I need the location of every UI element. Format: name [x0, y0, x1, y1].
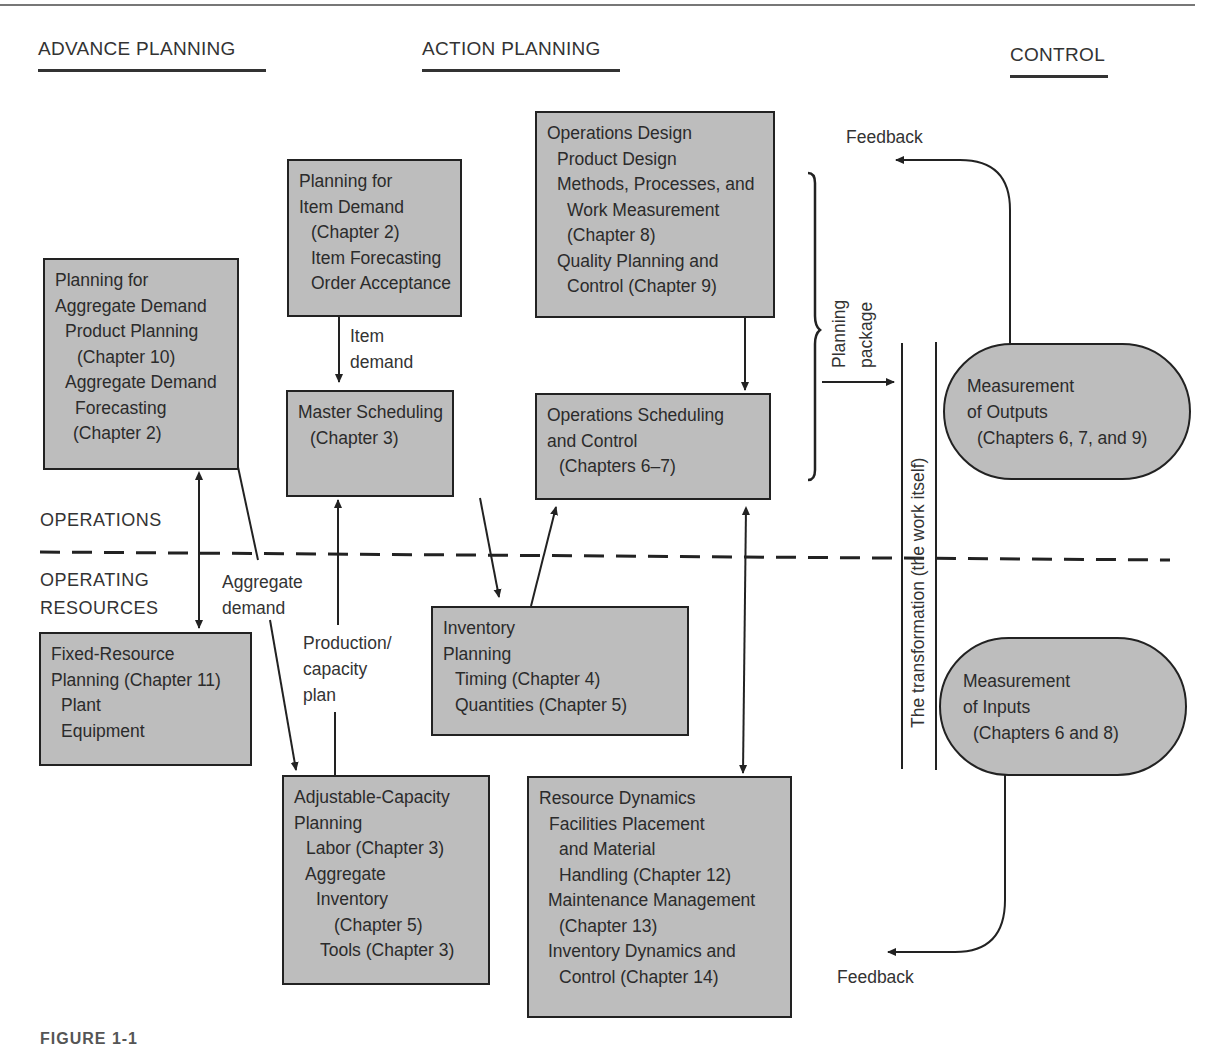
figure-caption: FIGURE 1-1	[40, 1030, 138, 1045]
planning-package-brace	[808, 173, 820, 480]
label-feedback-bottom: Feedback	[837, 964, 914, 990]
label-planning-package: Planning package	[826, 300, 880, 368]
box-planning-item-demand[interactable]: Planning for Item Demand (Chapter 2) Ite…	[287, 159, 462, 317]
feedback-curve-top	[896, 160, 1010, 344]
label-feedback-top: Feedback	[846, 124, 923, 150]
pill-measurement-of-outputs[interactable]: Measurement of Outputs (Chapters 6, 7, a…	[943, 343, 1191, 480]
box-operations-scheduling[interactable]: Operations Scheduling and Control (Chapt…	[535, 393, 771, 500]
label-production-capacity-plan: Production/ capacity plan	[303, 630, 392, 708]
label-transformation: The transformation (the work itself)	[908, 458, 929, 728]
box-master-scheduling[interactable]: Master Scheduling (Chapter 3)	[286, 390, 454, 497]
operations-divider	[40, 552, 1170, 560]
box-resource-dynamics[interactable]: Resource Dynamics Facilities Placement a…	[527, 776, 792, 1018]
arrow-ops-resource-dynamics	[743, 508, 746, 773]
pill-measurement-of-inputs[interactable]: Measurement of Inputs (Chapters 6 and 8)	[939, 637, 1187, 776]
arrow-master-to-inventory	[480, 498, 499, 597]
box-adjustable-capacity-planning[interactable]: Adjustable-Capacity Planning Labor (Chap…	[282, 775, 490, 985]
feedback-curve-bottom	[888, 775, 1005, 952]
line-aggregate-demand-upper	[238, 467, 258, 560]
box-planning-aggregate-demand[interactable]: Planning for Aggregate Demand Product Pl…	[43, 258, 239, 470]
arrow-aggregate-demand-lower	[270, 620, 296, 770]
box-inventory-planning[interactable]: Inventory Planning Timing (Chapter 4) Qu…	[431, 606, 689, 736]
label-item-demand: Item demand	[350, 323, 413, 375]
box-fixed-resource-planning[interactable]: Fixed-Resource Planning (Chapter 11) Pla…	[39, 632, 252, 766]
label-aggregate-demand: Aggregate demand	[222, 569, 303, 621]
box-operations-design[interactable]: Operations Design Product Design Methods…	[535, 111, 775, 318]
